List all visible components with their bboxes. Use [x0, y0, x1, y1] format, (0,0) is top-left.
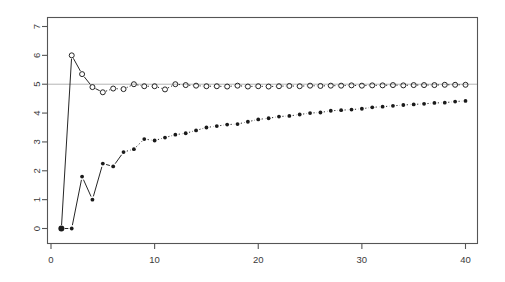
series-segment [158, 139, 162, 140]
series-segment [62, 59, 72, 225]
data-point-open [411, 83, 416, 88]
series-segment [293, 115, 297, 116]
x-tick-label: 0 [48, 254, 53, 265]
series-segment [106, 90, 110, 91]
filled-series-line [65, 101, 462, 228]
data-point-filled [236, 122, 240, 126]
data-point-filled [453, 100, 457, 104]
data-point-filled [391, 104, 395, 108]
data-point-filled [277, 115, 281, 119]
data-point-open [349, 83, 354, 88]
data-point-filled [101, 162, 105, 166]
data-point-filled [80, 175, 84, 179]
series-segment [220, 125, 224, 126]
filled-series-points [58, 99, 467, 231]
data-point-open [442, 82, 447, 87]
data-point-filled [184, 131, 188, 135]
data-point-filled [70, 227, 74, 231]
y-axis-ticks [42, 27, 48, 229]
x-tick-label: 30 [357, 254, 368, 265]
data-point-filled [401, 103, 405, 107]
data-point-open [90, 85, 95, 90]
y-tick-label: 0 [31, 226, 42, 231]
y-tick-label: 7 [31, 24, 42, 29]
y-axis-tick-labels: 01234567 [31, 24, 42, 231]
series-segment [148, 140, 152, 141]
x-tick-label: 40 [460, 254, 471, 265]
data-point-filled [308, 111, 312, 115]
y-tick-label: 1 [31, 197, 42, 202]
data-point-open [432, 83, 437, 88]
series-segment [84, 77, 90, 85]
y-tick-label: 5 [31, 82, 42, 87]
series-segment [241, 122, 245, 123]
series-segment [158, 87, 162, 88]
data-point-filled [329, 109, 333, 113]
data-point-filled [122, 150, 126, 154]
data-point-open [370, 83, 375, 88]
series-segment [365, 108, 369, 109]
data-point-filled [205, 126, 209, 130]
data-point-filled [194, 128, 198, 132]
data-point-open [121, 87, 126, 92]
y-tick-label: 2 [31, 168, 42, 173]
data-point-open [390, 83, 395, 88]
data-point-filled [319, 111, 323, 115]
data-point-open [69, 53, 74, 58]
data-point-open [401, 83, 406, 88]
data-point-open [453, 82, 458, 87]
data-point-filled [287, 114, 291, 118]
data-point-filled [215, 124, 219, 128]
data-point-filled [246, 120, 250, 124]
data-point-filled [412, 103, 416, 107]
data-point-open [422, 83, 427, 88]
series-segment [127, 86, 131, 88]
series-segment [179, 134, 183, 135]
plot-frame [48, 18, 478, 244]
data-point-filled [422, 102, 426, 106]
series-segment [210, 127, 214, 128]
series-segment [95, 89, 99, 91]
data-point-open [183, 83, 188, 88]
x-axis-ticks [51, 244, 466, 250]
series-segment [127, 150, 131, 151]
x-tick-label: 10 [149, 254, 160, 265]
data-point-filled [91, 198, 95, 202]
series-segment [168, 86, 172, 88]
y-tick-label: 4 [31, 110, 42, 115]
data-point-filled [267, 116, 271, 120]
data-point-filled [443, 101, 447, 105]
series-segment [106, 164, 110, 165]
y-tick-label: 3 [31, 139, 42, 144]
data-point-open [225, 84, 230, 89]
data-point-filled [111, 165, 115, 169]
data-point-filled [142, 137, 146, 141]
data-point-filled [163, 136, 167, 140]
data-point-filled [370, 105, 374, 109]
series-segment [324, 111, 328, 112]
open-series-points [69, 53, 468, 95]
plot-area: 010203040 01234567 [0, 0, 505, 282]
data-point-open [80, 72, 85, 77]
data-point-filled [433, 101, 437, 105]
data-point-filled [132, 147, 136, 151]
data-point-filled [173, 133, 177, 137]
series-segment [303, 114, 307, 115]
series-segment [137, 85, 141, 86]
data-point-open [111, 86, 116, 91]
data-point-open [245, 84, 250, 89]
series-segment [189, 131, 193, 132]
data-point-filled [298, 113, 302, 117]
series-segment [72, 180, 81, 225]
data-point-filled [339, 108, 343, 112]
data-point-filled [360, 107, 364, 111]
x-tick-label: 20 [253, 254, 264, 265]
data-point-filled [58, 226, 64, 232]
series-segment [168, 136, 172, 137]
series-segment [136, 141, 141, 146]
series-segment [93, 167, 101, 197]
x-axis-tick-labels: 010203040 [48, 254, 470, 265]
data-point-filled [225, 123, 229, 127]
series-segment [251, 120, 255, 121]
data-point-open [463, 82, 468, 87]
